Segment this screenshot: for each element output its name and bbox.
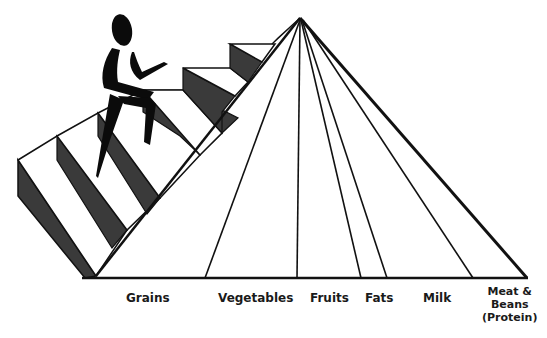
section-label-fruits: Fruits: [310, 292, 349, 305]
food-pyramid-diagram: Exercise Grains Vegetables Fruits Fats M…: [0, 0, 547, 338]
section-label-grains: Grains: [126, 292, 170, 305]
figure-head: [109, 13, 134, 48]
pyramid-graphic: [0, 0, 547, 338]
exercise-staircase: [18, 18, 300, 278]
pyramid-right-edge: [300, 18, 527, 278]
section-label-fats: Fats: [365, 292, 393, 305]
section-label-meat-beans: Meat & Beans (Protein): [482, 285, 537, 324]
section-label-milk: Milk: [423, 292, 451, 305]
divider-vegetables-fruits: [297, 20, 300, 278]
divider-fats-milk: [302, 20, 387, 278]
figure-arm: [130, 52, 168, 80]
section-label-vegetables: Vegetables: [218, 292, 293, 305]
divider-milk-meat: [303, 20, 473, 278]
divider-fruits-fats: [301, 20, 361, 278]
